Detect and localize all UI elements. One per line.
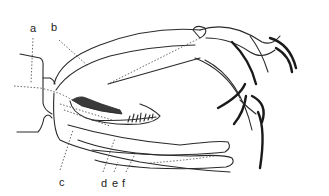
label-e: e [112, 178, 118, 189]
label-b: b [51, 22, 57, 33]
claw-hook-4 [258, 112, 263, 168]
illustration-drawing [0, 0, 329, 196]
bristle-comb [128, 113, 153, 122]
label-c: c [59, 177, 65, 188]
label-a: a [30, 23, 36, 34]
claw-hook-2 [218, 84, 245, 108]
label-f: f [122, 178, 125, 189]
pointer-c [60, 130, 73, 170]
anatomical-figure: a b c d e f [0, 0, 329, 196]
pointer-a [31, 38, 33, 84]
body-segment-outline [20, 54, 52, 114]
label-d: d [101, 178, 107, 189]
pointer-e [114, 162, 118, 172]
claw-hook-3 [252, 96, 264, 122]
outer-arc-upper [54, 29, 200, 84]
claw-upper-outline [200, 27, 280, 43]
pointer-f [126, 154, 135, 172]
dark-tissue-mass [72, 97, 122, 114]
pointer-b [59, 40, 88, 66]
